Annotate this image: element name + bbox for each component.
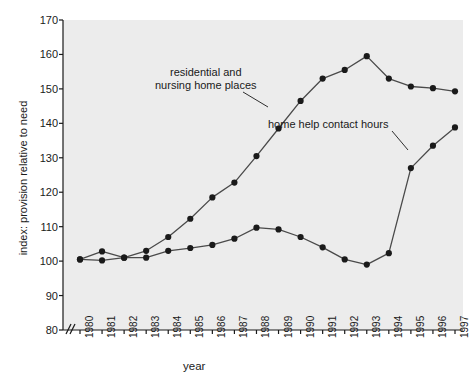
data-point xyxy=(386,250,392,256)
data-point xyxy=(165,234,171,240)
annotation-residential-line2: nursing home places xyxy=(155,79,257,92)
data-point xyxy=(452,124,458,130)
data-point xyxy=(77,256,83,262)
axis-break-marks xyxy=(66,324,75,334)
annotation-residential: residential and nursing home places xyxy=(155,66,257,92)
data-point xyxy=(143,255,149,261)
leader-line-homehelp xyxy=(392,131,408,150)
axes xyxy=(63,20,463,330)
data-point xyxy=(342,67,348,73)
y-axis-title: index: provision relative to need xyxy=(17,78,29,278)
series-line-1 xyxy=(80,127,455,264)
data-point xyxy=(408,83,414,89)
data-point xyxy=(253,153,259,159)
data-point xyxy=(99,257,105,263)
annotation-home-help: home help contact hours xyxy=(268,118,388,131)
data-point xyxy=(165,248,171,254)
data-point xyxy=(452,88,458,94)
data-point xyxy=(121,255,127,261)
data-point xyxy=(209,242,215,248)
data-point xyxy=(275,226,281,232)
data-point xyxy=(231,179,237,185)
chart-svg xyxy=(0,0,473,381)
data-point xyxy=(320,244,326,250)
data-point xyxy=(231,236,237,242)
data-point xyxy=(430,85,436,91)
leader-line-residential xyxy=(243,92,268,107)
data-point xyxy=(99,248,105,254)
data-point xyxy=(209,194,215,200)
data-point xyxy=(408,165,414,171)
series-line-0 xyxy=(80,56,455,260)
data-point xyxy=(364,261,370,267)
data-point xyxy=(187,245,193,251)
chart-figure: 170 160 150 140 130 120 110 100 90 80 19… xyxy=(0,0,473,381)
data-point xyxy=(187,216,193,222)
data-point xyxy=(430,143,436,149)
data-point xyxy=(342,256,348,262)
data-series xyxy=(77,53,458,268)
data-point xyxy=(386,75,392,81)
data-point xyxy=(297,98,303,104)
data-point xyxy=(364,53,370,59)
data-point xyxy=(253,225,259,231)
data-point xyxy=(143,248,149,254)
x-axis-title: year xyxy=(183,360,205,372)
data-point xyxy=(297,234,303,240)
data-point xyxy=(320,75,326,81)
annotation-residential-line1: residential and xyxy=(155,66,257,79)
